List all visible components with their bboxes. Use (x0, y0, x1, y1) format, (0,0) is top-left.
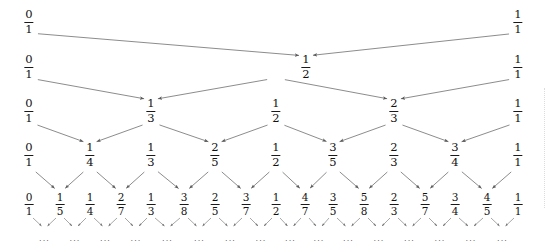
fraction-denominator: 3 (147, 205, 156, 216)
fraction-numerator: 2 (389, 142, 398, 154)
ellipsis-label: ... (313, 235, 324, 243)
fraction-numerator: 1 (146, 142, 155, 154)
fraction-node: 12 (271, 192, 282, 216)
fraction-numerator: 0 (24, 9, 33, 21)
fraction-node: 45 (482, 192, 493, 216)
fraction-numerator: 1 (147, 192, 156, 203)
continuation-ellipsis: ... (100, 234, 111, 243)
fraction-denominator: 7 (242, 205, 251, 216)
fraction-numerator: 1 (301, 54, 310, 66)
fraction-denominator: 3 (390, 205, 399, 216)
fraction-node: 13 (146, 192, 157, 216)
fraction-denominator: 4 (451, 205, 460, 216)
fraction-node: 12 (270, 98, 281, 124)
fraction-node: 11 (512, 54, 523, 80)
fraction-numerator: 2 (390, 192, 399, 203)
fraction-numerator: 3 (242, 192, 251, 203)
fraction-node: 27 (116, 192, 127, 216)
ellipsis-label: ... (100, 235, 111, 243)
fraction-node: 13 (145, 142, 156, 168)
fraction-denominator: 2 (271, 156, 280, 168)
fraction-node: 57 (420, 192, 431, 216)
continuation-ellipsis: ... (69, 234, 80, 243)
fraction-node: 25 (209, 142, 220, 168)
fraction-denominator: 5 (483, 205, 492, 216)
fraction-denominator: 1 (24, 23, 33, 35)
fraction-node: 12 (270, 142, 281, 168)
fraction-node: 47 (300, 192, 311, 216)
fraction-denominator: 2 (271, 112, 280, 124)
fraction-denominator: 5 (328, 156, 337, 168)
fraction-node: 35 (328, 192, 339, 216)
continuation-ellipsis: ... (225, 234, 236, 243)
ellipsis-label: ... (39, 235, 50, 243)
fraction-numerator: 1 (514, 192, 523, 203)
fraction-node: 37 (241, 192, 252, 216)
ellipsis-label: ... (285, 235, 296, 243)
fraction-node: 58 (359, 192, 370, 216)
fraction-denominator: 3 (389, 112, 398, 124)
fraction-numerator: 0 (25, 192, 34, 203)
fraction-node: 25 (210, 192, 221, 216)
fraction-numerator: 4 (483, 192, 492, 203)
fraction-numerator: 0 (24, 142, 33, 154)
ellipsis-label: ... (497, 235, 508, 243)
fraction-numerator: 2 (211, 192, 220, 203)
continuation-ellipsis: ... (434, 234, 445, 243)
fraction-denominator: 5 (210, 156, 219, 168)
fraction-denominator: 1 (24, 112, 33, 124)
fraction-denominator: 1 (514, 205, 523, 216)
fraction-node: 01 (23, 98, 34, 124)
fraction-numerator: 3 (329, 192, 338, 203)
ellipsis-label: ... (404, 235, 415, 243)
fraction-numerator: 1 (513, 98, 522, 110)
fraction-denominator: 1 (24, 156, 33, 168)
continuation-ellipsis: ... (285, 234, 296, 243)
fraction-denominator: 3 (146, 112, 155, 124)
fraction-denominator: 3 (146, 156, 155, 168)
fraction-numerator: 1 (85, 142, 94, 154)
ellipsis-label: ... (225, 235, 236, 243)
continuation-ellipsis: ... (465, 234, 476, 243)
fraction-node: 14 (84, 142, 95, 168)
fraction-numerator: 3 (180, 192, 189, 203)
fraction-denominator: 7 (117, 205, 126, 216)
ellipsis-label: ... (255, 235, 266, 243)
fraction-denominator: 5 (329, 205, 338, 216)
fraction-node: 38 (179, 192, 190, 216)
farey-mediant-tree-figure: 0111011211011312231101141325123523341101… (0, 0, 546, 252)
fraction-node: 14 (85, 192, 96, 216)
fraction-numerator: 1 (271, 98, 280, 110)
fraction-node: 12 (300, 54, 311, 80)
fraction-denominator: 8 (180, 205, 189, 216)
ellipsis-label: ... (130, 235, 141, 243)
fraction-numerator: 1 (56, 192, 65, 203)
fraction-numerator: 3 (450, 142, 459, 154)
fraction-node: 35 (327, 142, 338, 168)
continuation-ellipsis: ... (343, 234, 354, 243)
fraction-node: 34 (449, 142, 460, 168)
continuation-ellipsis: ... (39, 234, 50, 243)
fraction-numerator: 1 (146, 98, 155, 110)
fraction-numerator: 1 (272, 192, 281, 203)
fraction-numerator: 1 (86, 192, 95, 203)
ellipsis-label: ... (343, 235, 354, 243)
fraction-node: 23 (389, 192, 400, 216)
fraction-denominator: 1 (513, 112, 522, 124)
ellipsis-label: ... (434, 235, 445, 243)
fraction-denominator: 4 (86, 205, 95, 216)
ellipsis-label: ... (373, 235, 384, 243)
continuation-ellipsis: ... (162, 234, 173, 243)
fraction-numerator: 0 (24, 54, 33, 66)
continuation-ellipsis: ... (313, 234, 324, 243)
continuation-ellipsis: ... (373, 234, 384, 243)
continuation-ellipsis: ... (130, 234, 141, 243)
fraction-node: 23 (388, 98, 399, 124)
fraction-numerator: 0 (24, 98, 33, 110)
fraction-denominator: 8 (360, 205, 369, 216)
continuation-ellipsis: ... (255, 234, 266, 243)
fraction-denominator: 7 (301, 205, 310, 216)
fraction-denominator: 2 (301, 68, 310, 80)
fraction-node: 15 (55, 192, 66, 216)
fraction-numerator: 4 (301, 192, 310, 203)
